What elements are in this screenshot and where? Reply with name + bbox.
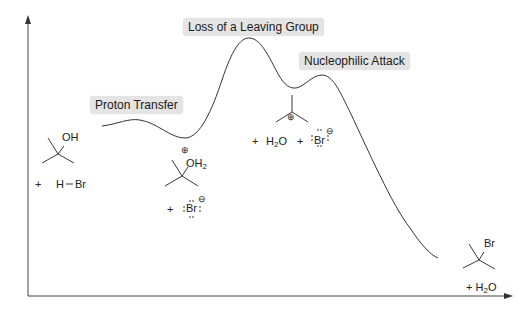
carbocation-charge-icon: ⊕ <box>287 112 295 122</box>
o-text: O <box>278 135 287 147</box>
plus-h-text: + H <box>466 281 483 293</box>
label-loss-of-leaving-group: Loss of a Leaving Group <box>183 18 324 36</box>
negative-charge-icon: ⊖ <box>198 194 206 204</box>
label-nucleophilic-attack: Nucleophilic Attack <box>299 52 410 70</box>
intermediate1-plus: + <box>167 203 173 215</box>
label-proton-transfer: Proton Transfer <box>90 96 183 114</box>
x-axis <box>28 293 513 299</box>
oh-text: OH <box>186 157 203 169</box>
intermediate1-br: Br <box>186 202 197 214</box>
reactant-h: H <box>56 178 64 190</box>
reactant-plus: + <box>35 178 41 190</box>
o-text: O <box>488 281 497 293</box>
intermediate1-oh2: OH2 <box>186 157 207 171</box>
subscript-2: 2 <box>203 162 207 171</box>
reactant-br: Br <box>75 178 86 190</box>
product-h2o: + H2O <box>466 281 496 295</box>
energy-diagram: Proton Transfer Loss of a Leaving Group … <box>0 0 518 318</box>
product-br: Br <box>484 237 495 249</box>
intermediate2-plus-2: + <box>297 135 303 147</box>
intermediate2-h2o: H2O <box>266 135 287 149</box>
h-text: H <box>266 135 274 147</box>
bromide-charge-icon: ⊖ <box>326 126 334 136</box>
diagram-canvas <box>0 0 518 318</box>
intermediate2-plus-1: + <box>252 135 258 147</box>
positive-charge-icon: ⊕ <box>181 145 189 155</box>
y-axis <box>25 15 31 296</box>
intermediate2-br: Br <box>314 134 325 146</box>
reactant-oh: OH <box>62 131 79 143</box>
